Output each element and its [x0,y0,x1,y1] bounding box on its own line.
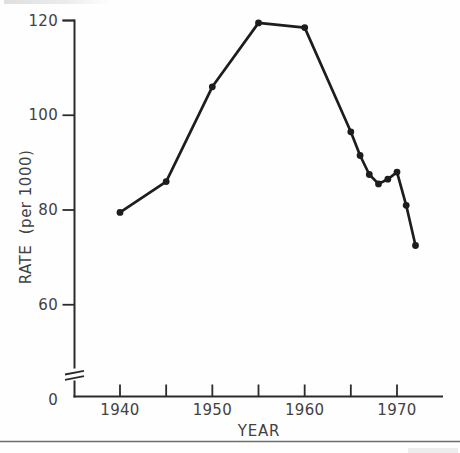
x-tick-label: 1960 [285,402,324,418]
data-point [163,178,170,185]
axis-break-slash [65,371,84,375]
y-tick-label: 80 [0,202,58,218]
x-tick-label: 1940 [100,402,139,418]
y-tick-label: 100 [0,107,58,123]
x-tick-label: 1950 [193,402,232,418]
data-point [394,169,401,176]
data-point [366,171,373,178]
axis-break-slash [65,376,84,380]
data-point [209,83,216,90]
y-tick-label: 120 [0,13,58,29]
data-point [412,242,419,249]
data-point [375,181,382,188]
data-point [357,152,364,159]
figure-scan: RATE (per 1000) YEAR 06080100120 1940195… [0,0,460,453]
data-point [255,20,262,27]
y-tick-label: 60 [0,297,58,313]
x-axis-title: YEAR [238,423,281,439]
data-point [347,128,354,135]
x-tick-label: 1970 [377,402,416,418]
data-point [384,176,391,183]
data-line [120,23,416,246]
line-chart-canvas [0,0,460,453]
data-point [301,24,308,31]
scan-artifact-bottom-right [408,448,458,453]
data-point [403,202,410,209]
data-point [117,209,124,216]
y-tick-label: 0 [0,392,58,408]
